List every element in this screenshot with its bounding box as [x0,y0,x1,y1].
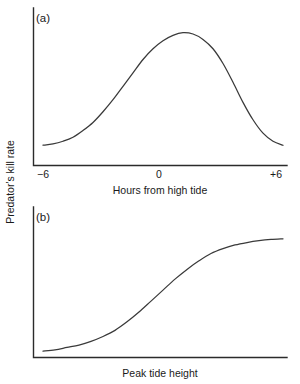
shared-y-axis-label: Predator's kill rate [4,140,16,224]
panel-b-curve [43,239,283,351]
panel-a-x-axis-label: Hours from high tide [113,184,208,196]
panel-a-tag: (a) [36,12,50,24]
figure-container: Predator's kill rate (a) −6 0 +6 Hours f… [0,0,300,384]
panel-a-xtick-label-1: 0 [156,168,162,180]
panel-b: (b) Peak tide height [34,207,288,379]
panel-b-x-axis-label: Peak tide height [122,367,197,379]
panel-a-xtick-label-2: +6 [270,168,282,180]
panel-a-xtick-label-0: −6 [37,168,49,180]
panel-a-axes [34,8,288,166]
panel-b-tag: (b) [36,211,50,223]
panel-a-curve [43,33,283,146]
two-panel-line-chart-figure: Predator's kill rate (a) −6 0 +6 Hours f… [0,0,300,384]
panel-b-axes [34,207,288,358]
panel-a: (a) −6 0 +6 Hours from high tide [34,8,288,196]
